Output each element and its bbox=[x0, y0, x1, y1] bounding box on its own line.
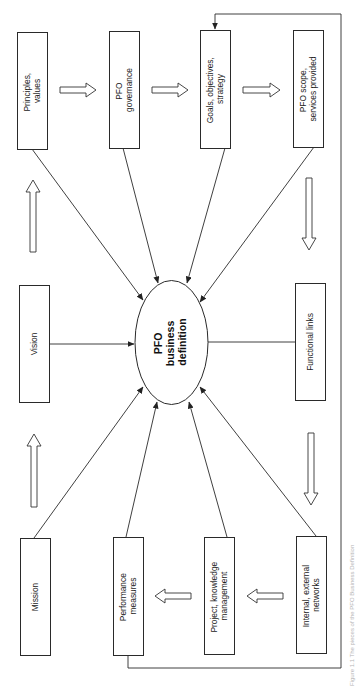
box-scope-line1: PFO scope, bbox=[298, 68, 308, 112]
box-mission: Mission bbox=[21, 539, 51, 656]
box-networks-line2: networks bbox=[311, 578, 321, 612]
connector-goals bbox=[187, 148, 225, 283]
box-project-line2: management bbox=[219, 571, 229, 621]
box-performance: Performance measures bbox=[114, 538, 144, 656]
arrow-down-icon bbox=[302, 178, 316, 250]
arrow-up-icon bbox=[27, 434, 41, 507]
connector-mission bbox=[34, 387, 143, 538]
arrow-down-icon bbox=[304, 433, 318, 505]
arrow-right-icon bbox=[152, 83, 188, 97]
arrow-up-icon bbox=[26, 180, 40, 252]
box-functional-line1: Functional links bbox=[305, 313, 315, 371]
diagram-canvas: Principles, values PFO governance Goals,… bbox=[0, 0, 357, 689]
box-governance-line1: PFO bbox=[114, 82, 124, 100]
connector-governance bbox=[123, 148, 158, 283]
center-line2: business bbox=[164, 321, 176, 367]
connector-networks bbox=[200, 387, 316, 536]
box-scope-line2: services provided bbox=[308, 56, 318, 122]
svg-text:Mission: Mission bbox=[30, 582, 40, 611]
box-vision-line1: Vision bbox=[29, 332, 39, 355]
box-mission-line1: Mission bbox=[30, 582, 40, 611]
box-goals-line1: Goals, objectives, bbox=[205, 57, 215, 123]
svg-text:Functional links: Functional links bbox=[305, 313, 315, 371]
center-line1: PFO bbox=[152, 333, 164, 355]
box-governance-line2: governance bbox=[124, 68, 134, 112]
box-networks-line1: Internal, external bbox=[301, 565, 311, 628]
connector-project bbox=[189, 402, 227, 537]
svg-text:Vision: Vision bbox=[29, 332, 39, 355]
arrow-left-icon bbox=[155, 589, 191, 603]
connector-performance bbox=[126, 402, 157, 537]
connector-scope bbox=[200, 147, 314, 302]
box-performance-line2: measures bbox=[128, 578, 138, 615]
box-performance-line1: Performance bbox=[118, 573, 128, 621]
box-principles-line2: values bbox=[32, 79, 42, 103]
center-node: PFO business definition bbox=[135, 281, 208, 405]
arrow-right-icon bbox=[60, 83, 96, 97]
arrow-right-icon bbox=[243, 83, 280, 97]
box-networks: Internal, external networks bbox=[297, 537, 327, 654]
box-functional: Functional links bbox=[296, 284, 326, 401]
svg-text:Performance measures: Performance measures bbox=[118, 571, 138, 621]
box-vision: Vision bbox=[20, 286, 50, 403]
center-line3: definition bbox=[176, 318, 188, 365]
box-goals-line2: strategy bbox=[215, 73, 225, 104]
box-principles-line1: Principles, bbox=[22, 73, 32, 112]
box-principles: Principles, values bbox=[18, 33, 48, 150]
box-project: Project, knowledge management bbox=[205, 538, 235, 655]
svg-text:PFO scope, services prov: PFO scope, services provided bbox=[298, 56, 318, 122]
box-governance: PFO governance bbox=[110, 32, 140, 149]
box-goals: Goals, objectives, strategy bbox=[201, 31, 231, 149]
arrow-left-icon bbox=[247, 589, 283, 603]
box-project-line1: Project, knowledge bbox=[209, 561, 219, 632]
figure-caption: Figure 1.1 The pieces of the PFO Busines… bbox=[349, 545, 355, 686]
connector-principles bbox=[32, 149, 143, 300]
box-scope: PFO scope, services provided bbox=[294, 31, 324, 148]
